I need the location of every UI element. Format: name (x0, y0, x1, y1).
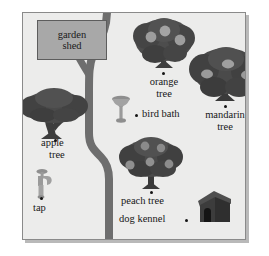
dog-kennel[interactable]: dog kennel (195, 189, 235, 225)
mandarin-tree[interactable]: mandarin tree (189, 45, 246, 111)
orange-tree-label-line1: orange (150, 76, 179, 87)
tree-icon[interactable] (131, 16, 197, 78)
garden-shed-label-line2: shed (62, 40, 81, 51)
tap-label: tap (33, 202, 46, 214)
tap[interactable]: tap (34, 168, 60, 206)
dog-kennel-label: dog kennel (119, 213, 165, 225)
shed-icon[interactable]: garden shed (37, 20, 107, 60)
garden-map: garden shed orange tree (0, 0, 269, 256)
dog-kennel-icon[interactable] (195, 189, 235, 225)
bird-bath-icon[interactable] (111, 93, 131, 125)
tree-icon[interactable] (119, 135, 185, 197)
peach-tree-label: peach tree (121, 195, 164, 207)
mandarin-tree-label-line1: mandarin (205, 109, 245, 120)
apple-tree-label: apple tree (33, 137, 93, 160)
bird-bath[interactable]: bird bath (111, 93, 131, 125)
orange-tree-label: orange tree (133, 76, 195, 99)
peach-tree[interactable]: peach tree (119, 135, 185, 197)
orange-tree[interactable]: orange tree (131, 16, 197, 78)
tap-icon[interactable] (34, 168, 60, 206)
apple-tree[interactable]: apple tree (22, 85, 89, 147)
apple-tree-label-line2: tree (49, 149, 65, 160)
mandarin-tree-label-line2: tree (217, 121, 233, 132)
garden-shed-label-line1: garden (58, 29, 87, 40)
apple-tree-label-line1: apple (41, 137, 64, 148)
map-frame: garden shed orange tree (22, 12, 246, 240)
orange-tree-label-line2: tree (156, 88, 172, 99)
bird-bath-label: bird bath (142, 108, 180, 120)
tree-icon[interactable] (189, 45, 246, 111)
mandarin-tree-label: mandarin tree (192, 109, 246, 132)
